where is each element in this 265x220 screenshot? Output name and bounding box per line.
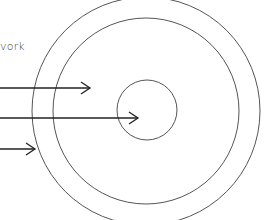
inner-core-circle xyxy=(117,80,177,140)
outer-ring-circle xyxy=(32,0,260,220)
arrow-to-outer-ring xyxy=(0,143,35,155)
arrow-to-middle-ring xyxy=(0,82,90,94)
network-label: vork xyxy=(0,40,25,53)
middle-ring-circle xyxy=(53,18,239,204)
concentric-circles-diagram xyxy=(0,0,265,220)
